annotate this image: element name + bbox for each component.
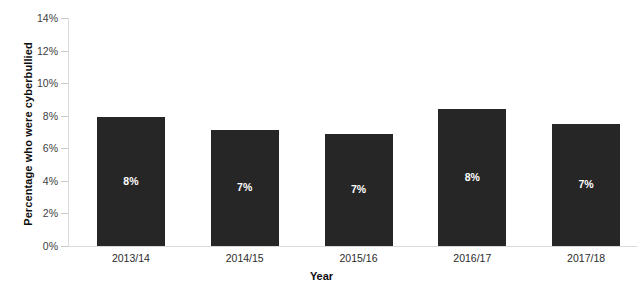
y-axis-tick-label: 8% (14, 110, 58, 122)
bar[interactable]: 8% (97, 117, 165, 246)
y-axis-tick-label: 10% (14, 77, 58, 89)
bar[interactable]: 7% (552, 124, 620, 246)
y-axis-tick (61, 116, 68, 117)
y-axis-tick (61, 148, 68, 149)
x-axis-tick-label: 2016/17 (418, 252, 526, 264)
x-axis-line (68, 246, 637, 247)
bar-value-label: 8% (97, 175, 165, 187)
y-axis-tick (61, 213, 68, 214)
bar[interactable]: 7% (211, 130, 279, 246)
y-axis-tick (61, 51, 68, 52)
y-axis-tick (61, 18, 68, 19)
y-axis-tick-label: 0% (14, 240, 58, 252)
bar-value-label: 7% (552, 178, 620, 190)
y-axis-tick-label: 14% (14, 12, 58, 24)
y-axis-line (68, 18, 69, 247)
bar[interactable]: 8% (438, 109, 506, 246)
y-axis-tick (61, 246, 68, 247)
bar-chart: Percentage who were cyberbullied 8%7%7%8… (0, 0, 643, 294)
y-axis-tick-label: 4% (14, 175, 58, 187)
bar-value-label: 8% (438, 171, 506, 183)
y-axis-tick (61, 181, 68, 182)
y-axis-tick-label: 12% (14, 45, 58, 57)
x-axis-tick-label: 2017/18 (532, 252, 640, 264)
bar-value-label: 7% (211, 181, 279, 193)
y-axis-tick-label: 2% (14, 207, 58, 219)
bar-value-label: 7% (325, 183, 393, 195)
x-axis-tick-label: 2015/16 (305, 252, 413, 264)
plot-area: 8%7%7%8%7% (68, 18, 637, 246)
x-axis-tick-label: 2014/15 (191, 252, 299, 264)
x-axis-tick-label: 2013/14 (77, 252, 185, 264)
x-axis-title: Year (0, 270, 643, 282)
y-axis-tick-label: 6% (14, 142, 58, 154)
bar[interactable]: 7% (325, 134, 393, 246)
y-axis-tick (61, 83, 68, 84)
